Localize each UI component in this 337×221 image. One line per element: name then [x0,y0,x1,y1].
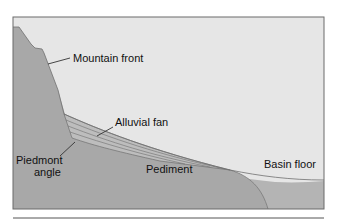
label-alluvial-fan: Alluvial fan [115,116,168,128]
label-mountain-front: Mountain front [73,52,143,64]
landform-diagram: Mountain front Alluvial fan Piedmont ang… [0,0,337,221]
label-basin-floor: Basin floor [264,158,316,170]
label-pediment: Pediment [146,163,192,175]
label-piedmont-line1: Piedmont [16,154,62,166]
label-piedmont-line2: angle [34,166,61,178]
